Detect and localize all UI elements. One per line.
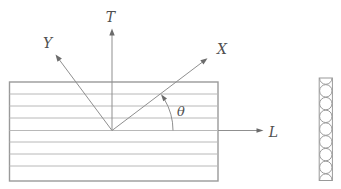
fiber-circles [320, 72, 332, 186]
x-axis-line [112, 62, 203, 131]
theta-arc [164, 99, 173, 130]
y-axis-line [60, 60, 113, 131]
l-axis-label: L [268, 124, 278, 140]
fiber-circle [320, 161, 332, 173]
axis-labels: T Y X L θ [43, 9, 278, 141]
fiber-circle [320, 123, 332, 135]
fiber-circle [320, 148, 332, 160]
fiber-strip-rect [319, 78, 332, 181]
ply-lines [10, 94, 219, 166]
arrowheads [56, 29, 264, 133]
x-axis-arrowhead [200, 58, 207, 64]
fiber-circle [320, 85, 332, 97]
t-axis-label: T [106, 9, 117, 25]
x-axis-label: X [216, 41, 228, 57]
y-axis-label: Y [43, 35, 54, 51]
fiber-strip [319, 72, 332, 186]
fiber-circle [320, 136, 332, 148]
fiber-circle [320, 97, 332, 109]
theta-arc-arrowhead [161, 94, 167, 101]
lamina-orientation-diagram: T Y X L θ [0, 0, 341, 189]
fiber-circle [320, 110, 332, 122]
theta-label: θ [177, 104, 185, 119]
y-axis-arrowhead [56, 55, 62, 62]
l-axis-arrowhead [257, 128, 264, 133]
t-axis-arrowhead [109, 29, 114, 36]
lamina-orientation-figure: T Y X L θ [0, 0, 341, 189]
